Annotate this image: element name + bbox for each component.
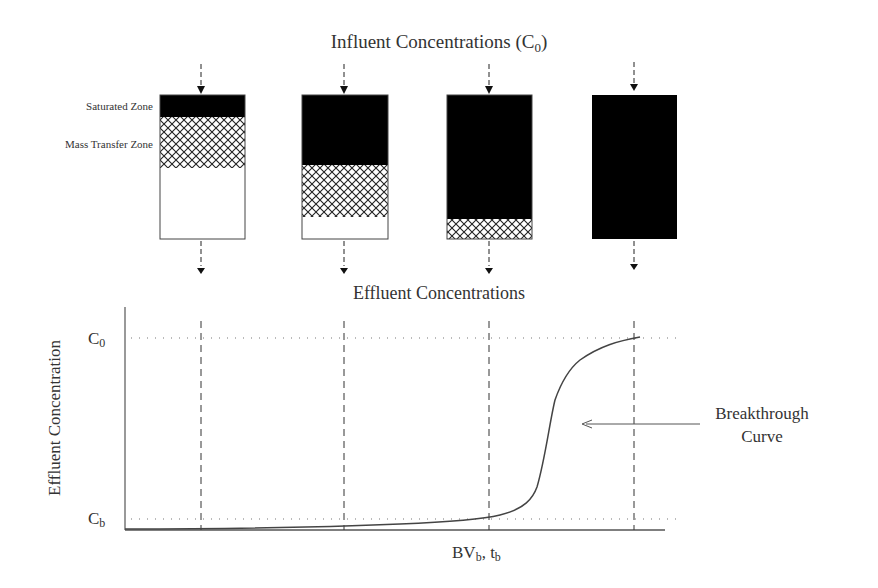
column-1 [160,64,245,274]
breakthrough-diagram: Influent Concentrations (C0) Saturated Z… [0,0,878,588]
annotation-line-2: Curve [741,427,783,446]
breakthrough-chart: Effluent Concentration C0 Cb BVb, tb Bre… [45,307,809,564]
y-tick-c0: C0 [88,329,105,350]
mass-transfer-zone-label: Mass Transfer Zone [65,138,153,150]
saturated-zone-label: Saturated Zone [86,100,153,112]
annotation-line-1: Breakthrough [715,404,809,423]
x-tick-breakthrough: BVb, tb [452,543,501,564]
column-3 [447,64,532,274]
column-4 [592,62,677,270]
y-axis-label: Effluent Concentration [45,340,64,496]
column-2 [302,64,388,274]
influent-title: Influent Concentrations (C0) [331,31,548,55]
y-tick-cb: Cb [88,509,105,530]
breakthrough-curve [125,337,640,529]
effluent-title: Effluent Concentrations [353,283,525,303]
